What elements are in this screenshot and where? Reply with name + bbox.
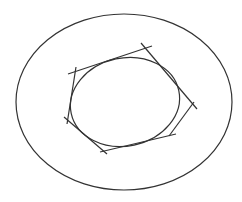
diagram-canvas xyxy=(0,0,242,202)
outer-ellipse xyxy=(16,14,232,190)
tangent-polygon xyxy=(64,43,197,154)
tangent-line-top xyxy=(68,46,152,74)
ellipse-tangent-diagram xyxy=(0,0,242,202)
inner-ellipse xyxy=(62,48,188,157)
tangent-line-upper-right xyxy=(141,43,197,109)
tangent-line-lower-left xyxy=(64,117,107,154)
tangent-line-bottom xyxy=(100,134,176,152)
